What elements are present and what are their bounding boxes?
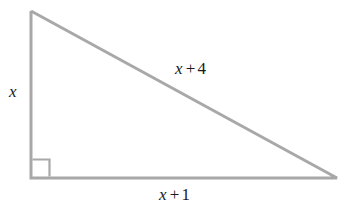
vertical-leg-variable: x xyxy=(9,82,18,101)
hypotenuse-variable: x xyxy=(175,59,184,78)
right-angle-marker-icon xyxy=(33,160,50,177)
horizontal-leg-number: 1 xyxy=(182,185,191,204)
hypotenuse-operator: + xyxy=(184,59,198,78)
right-triangle-figure: x x+4 x+1 xyxy=(0,0,351,208)
horizontal-leg-variable: x xyxy=(159,185,168,204)
vertical-leg-label: x xyxy=(9,83,22,100)
hypotenuse-number: 4 xyxy=(198,59,207,78)
horizontal-leg-operator: + xyxy=(168,185,182,204)
triangle-drawing xyxy=(0,0,351,208)
hypotenuse-label: x+4 xyxy=(175,60,206,77)
vertical-leg-operator xyxy=(18,82,22,101)
triangle-outline xyxy=(31,11,337,178)
horizontal-leg-label: x+1 xyxy=(159,186,190,203)
